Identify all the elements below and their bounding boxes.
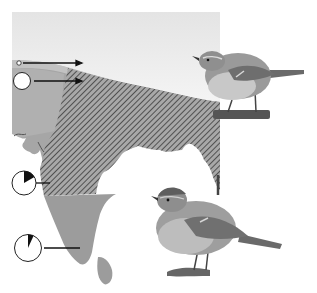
map (0, 0, 317, 293)
sri-lanka (97, 257, 112, 284)
distribution-map-figure (0, 0, 317, 293)
bird-top-eye (207, 59, 210, 62)
marker-large-circle (14, 73, 31, 90)
top-margin (0, 0, 317, 12)
branch-top (213, 110, 270, 119)
right-margin (220, 0, 317, 293)
bird-bottom-eye (167, 199, 170, 202)
twig-bottom (167, 268, 210, 277)
marker-small-circle (17, 61, 21, 65)
pie-marker-north (12, 171, 36, 195)
pie-marker-south (15, 234, 42, 261)
bird-top-head (199, 51, 225, 71)
